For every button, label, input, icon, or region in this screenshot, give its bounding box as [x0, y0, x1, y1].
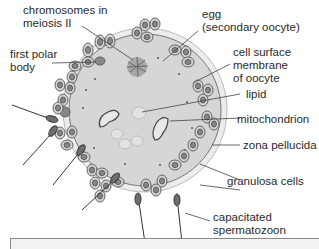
label-mitochondrion: mitochondrion — [237, 113, 309, 126]
label-first-polar-body: first polar body — [10, 48, 57, 74]
label-zona-pellucida: zona pellucida — [243, 139, 317, 152]
label-chromosomes: chromosomes in meiosis II — [23, 4, 107, 30]
label-lipid: lipid — [246, 88, 266, 101]
label-egg: egg (secondary oocyte) — [202, 8, 300, 34]
label-capacitated-spermatozoon: capacitated spermatozoon — [213, 211, 286, 237]
label-granulosa-cells: granulosa cells — [227, 175, 304, 188]
label-cell-surface-membrane: cell surface membrane of oocyte — [233, 46, 291, 85]
caption-box — [10, 238, 319, 249]
